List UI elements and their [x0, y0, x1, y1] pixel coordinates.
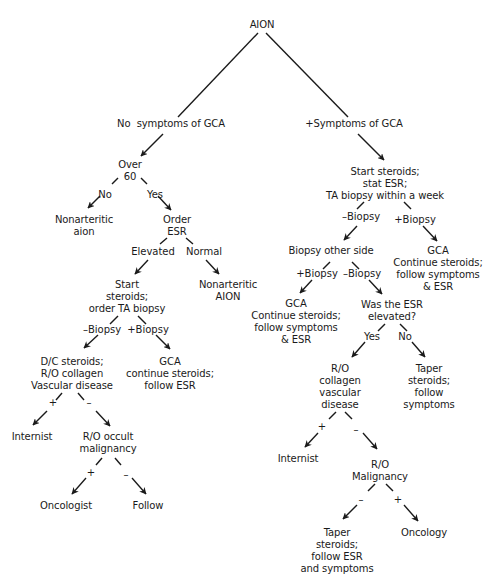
arrow-follow: [132, 478, 146, 494]
node-nonarteritic-aion: Nonarteritic aion: [55, 214, 113, 238]
node-order-esr: Order ESR: [163, 214, 191, 238]
label-no: No: [98, 189, 112, 201]
label-plus-r2: +: [394, 494, 402, 506]
node-gca-left: GCA continue steroids; follow ESR: [126, 356, 214, 392]
edge-r-neg: [357, 202, 364, 209]
label-neg-biopsy-r1: –Biopsy: [342, 211, 380, 223]
node-ro-occult: R/O occult malignancy: [80, 431, 137, 455]
label-pos-biopsy-r2: +Biopsy: [296, 268, 338, 280]
arrow-gca-r-top: [423, 226, 437, 241]
node-start-steroids-left: Start steroids; order TA biopsy: [89, 279, 165, 315]
arrow-rooccult: [96, 411, 110, 426]
node-ro-collagen: R/O collagen vascular disease: [319, 363, 360, 411]
arrow-startster-r: [358, 134, 384, 160]
label-minus-r1: –: [354, 424, 359, 436]
arrow-taper1: [412, 342, 425, 357]
arrow-gca-r-mid: [300, 280, 312, 293]
node-gca-right-mid: GCA Continue steroids; follow symptoms &…: [251, 298, 340, 346]
arrow-wasesr: [369, 280, 382, 294]
arrow-taper2: [343, 505, 357, 519]
edge-dc-minus: [78, 393, 84, 400]
node-taper-follow-symptoms: Taper steroids; follow symptoms: [403, 363, 454, 411]
label-plus-2: +: [87, 467, 95, 479]
node-biopsy-other-side: Biopsy other side: [288, 245, 373, 257]
flowchart-canvas: AION No symptoms of GCA +Symptoms of GCA…: [0, 0, 497, 582]
arrow-rocollagen: [352, 342, 365, 357]
edge-root-yes: [266, 33, 348, 117]
label-pos-biopsy-left: +Biopsy: [127, 324, 169, 336]
node-follow: Follow: [133, 500, 164, 512]
edge-rc-minus: [345, 412, 352, 419]
arrow-romalig: [363, 433, 377, 449]
edge-ss-neg: [110, 316, 118, 324]
edge-root-no: [178, 33, 258, 117]
edge-rm-minus: [368, 484, 375, 491]
edge-over60-no: [112, 178, 118, 184]
arrow-over60: [141, 134, 163, 156]
label-minus-1: –: [87, 397, 92, 409]
edge-esr-norm: [186, 238, 193, 244]
edge-wasesr-yes: [378, 324, 385, 331]
node-start-steroids-right: Start steroids; stat ESR; TA biopsy with…: [326, 166, 444, 202]
edge-esr-elev: [160, 238, 167, 244]
node-taper-follow-esr: Taper steroids; follow ESR and symptoms: [301, 527, 374, 575]
node-pos-symptoms: +Symptoms of GCA: [305, 118, 403, 130]
node-internist-right: Internist: [278, 453, 319, 465]
node-oncologist: Oncologist: [40, 500, 92, 512]
edge-ro-plus: [96, 458, 102, 465]
label-plus-1: +: [49, 397, 57, 409]
edge-ro-minus: [115, 458, 121, 465]
label-pos-biopsy-r1: +Biopsy: [394, 214, 436, 226]
label-plus-r1: +: [318, 421, 326, 433]
label-yes-r: Yes: [364, 331, 380, 343]
node-internist-left: Internist: [12, 431, 53, 443]
label-no-r: No: [398, 331, 412, 343]
node-aion: AION: [250, 19, 275, 31]
node-oncology: Oncology: [401, 527, 447, 539]
node-gca-right-top: GCA Continue steroids; follow symptoms &…: [393, 245, 482, 293]
label-neg-biopsy-r2: –Biopsy: [343, 268, 381, 280]
edge-wasesr-no: [400, 324, 407, 331]
node-nonarteritic-AION: Nonarteritic AION: [199, 279, 257, 303]
arrow-oncology: [404, 505, 418, 521]
node-dc-steroids: D/C steroids; R/O collagen Vascular dise…: [31, 356, 113, 392]
label-yes: Yes: [147, 189, 163, 201]
edge-ss-pos: [138, 316, 146, 324]
edge-r-pos: [404, 202, 411, 209]
arrow-gca-left: [156, 335, 170, 349]
arrow-biopsyother: [344, 226, 357, 240]
edge-over60-yes: [141, 178, 147, 184]
node-over60: Over 60: [118, 159, 142, 183]
label-elevated: Elevated: [131, 246, 175, 258]
label-normal: Normal: [186, 246, 222, 258]
label-neg-biopsy-left: –Biopsy: [83, 324, 121, 336]
arrow-internist-r: [305, 433, 318, 447]
node-no-symptoms: No symptoms of GCA: [117, 118, 225, 130]
arrow-startster: [135, 260, 148, 274]
arrow-oncologist: [72, 478, 86, 494]
edge-rc-plus: [329, 412, 336, 419]
label-minus-2: –: [124, 469, 129, 481]
arrow-internist-l: [33, 411, 47, 425]
node-was-esr-elevated: Was the ESR elevated?: [361, 299, 423, 323]
label-minus-r2: –: [359, 494, 364, 506]
arrow-nonartAION: [206, 260, 219, 274]
edge-rm-plus: [386, 484, 393, 491]
arrow-dc: [84, 335, 98, 348]
node-ro-malignancy: R/O Malignancy: [352, 459, 408, 483]
